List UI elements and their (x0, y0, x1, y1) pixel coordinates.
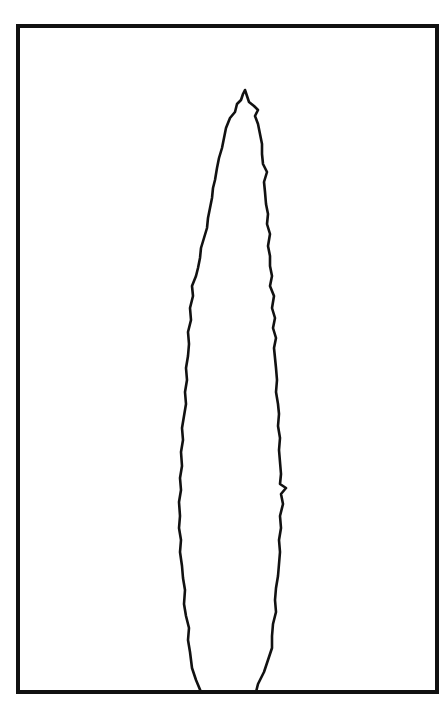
cypress-tree-outline (179, 90, 286, 692)
tree-drawing (0, 0, 448, 706)
drawing-canvas (0, 0, 448, 706)
